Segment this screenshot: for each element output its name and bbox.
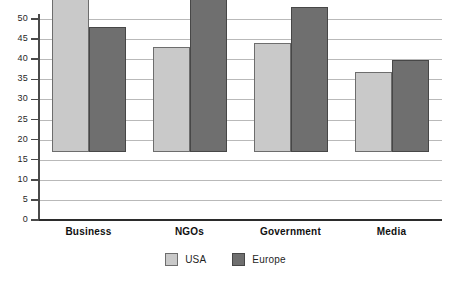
- legend-item-usa[interactable]: USA: [165, 253, 206, 266]
- y-axis-tick-label: 30: [2, 94, 28, 103]
- bar-europe-media: [392, 60, 429, 152]
- legend-label-usa: USA: [185, 254, 206, 265]
- chart-legend: USAEurope: [0, 253, 451, 266]
- y-axis-tick-label: 5: [2, 195, 28, 204]
- bar-usa-government: [254, 43, 291, 152]
- y-axis-tick-label: 15: [2, 155, 28, 164]
- y-axis-tick-label: 10: [2, 175, 28, 184]
- bar-europe-government: [291, 7, 328, 152]
- legend-swatch-europe-icon: [232, 253, 245, 266]
- bar-chart: 05101520253035404550 BusinessNGOsGovernm…: [0, 0, 451, 289]
- y-axis-tick-label: 40: [2, 54, 28, 63]
- y-axis-tick-label: 25: [2, 115, 28, 124]
- category-label-ngos: NGOs: [139, 226, 240, 237]
- bar-usa-ngos: [153, 47, 190, 152]
- bar-usa-media: [355, 72, 392, 152]
- bar-europe-ngos: [190, 0, 227, 152]
- y-axis-tick-label: 0: [2, 215, 28, 224]
- category-label-government: Government: [240, 226, 341, 237]
- category-label-business: Business: [38, 226, 139, 237]
- bar-usa-business: [52, 0, 89, 152]
- legend-label-europe: Europe: [252, 254, 285, 265]
- bars-layer: [38, 0, 442, 221]
- y-axis-tick-label: 50: [2, 14, 28, 23]
- legend-item-europe[interactable]: Europe: [232, 253, 285, 266]
- y-axis-tick-labels: 05101520253035404550: [0, 0, 28, 289]
- y-axis-tick-label: 45: [2, 34, 28, 43]
- bar-europe-business: [89, 27, 126, 152]
- y-axis-tick-label: 35: [2, 74, 28, 83]
- y-axis-tick-label: 20: [2, 135, 28, 144]
- legend-swatch-usa-icon: [165, 253, 178, 266]
- category-label-media: Media: [341, 226, 442, 237]
